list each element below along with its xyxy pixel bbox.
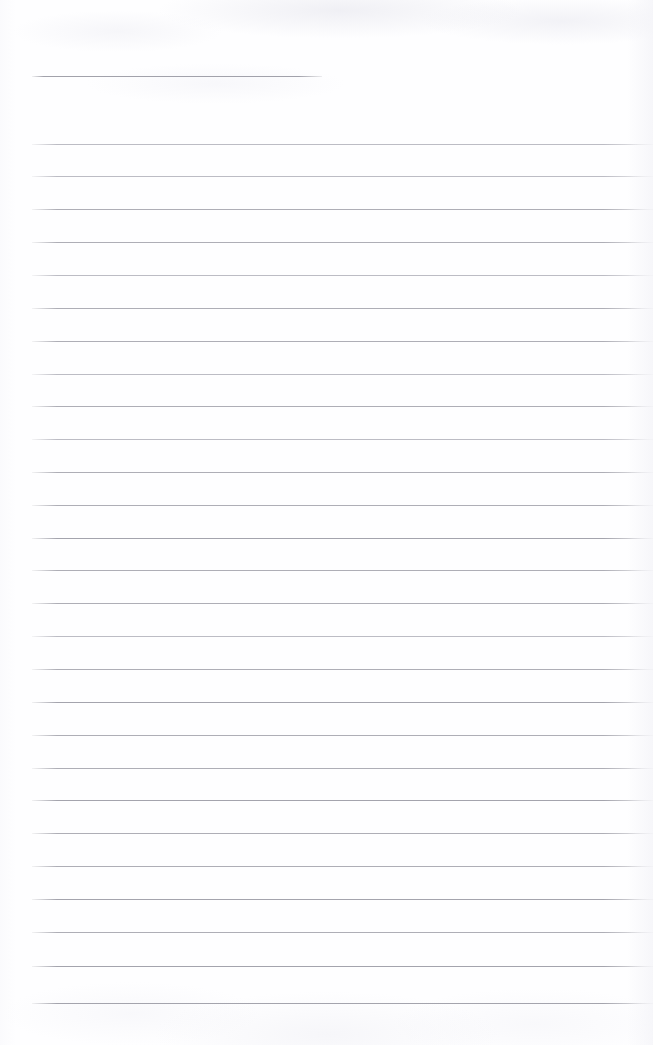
scanned-page xyxy=(0,0,653,1045)
ruled-lines-layer xyxy=(0,0,653,1045)
rule-2 xyxy=(32,176,653,177)
rule-4 xyxy=(32,242,653,243)
rule-6 xyxy=(32,308,653,309)
rule-16 xyxy=(32,636,653,637)
rule-12 xyxy=(32,505,653,506)
rule-26 xyxy=(32,966,653,967)
rule-21 xyxy=(32,800,653,801)
rule-27 xyxy=(32,1003,653,1004)
rule-7 xyxy=(32,341,653,342)
rule-5 xyxy=(32,275,653,276)
rule-20 xyxy=(32,768,653,769)
rule-3 xyxy=(32,209,653,210)
rule-19 xyxy=(32,735,653,736)
rule-13 xyxy=(32,538,653,539)
rule-14 xyxy=(32,570,653,571)
rule-1 xyxy=(32,144,653,145)
rule-15 xyxy=(32,603,653,604)
rule-24 xyxy=(32,899,653,900)
rule-22 xyxy=(32,833,653,834)
rule-11 xyxy=(32,472,653,473)
rule-18 xyxy=(32,702,653,703)
rule-25 xyxy=(32,932,653,933)
rule-17 xyxy=(32,669,653,670)
rule-9 xyxy=(32,406,653,407)
rule-10 xyxy=(32,439,653,440)
header-rule xyxy=(32,76,322,77)
rule-8 xyxy=(32,374,653,375)
rule-23 xyxy=(32,866,653,867)
